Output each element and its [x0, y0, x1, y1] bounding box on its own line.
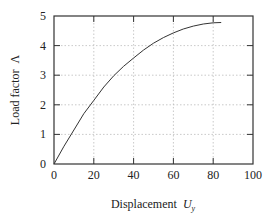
y-tick-labels: 012345 — [40, 9, 46, 171]
load-displacement-chart: 020406080100 012345 DisplacementUy Load … — [0, 0, 275, 218]
data-curve — [54, 23, 221, 165]
grid-lines — [54, 16, 253, 164]
y-tick-label: 5 — [40, 9, 46, 23]
x-tick-label: 60 — [167, 168, 179, 182]
plot-frame — [54, 16, 253, 164]
x-tick-label: 80 — [207, 168, 219, 182]
y-tick-label: 1 — [40, 127, 46, 141]
x-tick-label: 0 — [51, 168, 57, 182]
x-axis-label: DisplacementUy — [111, 197, 196, 213]
x-tick-label: 20 — [88, 168, 100, 182]
x-tick-label: 40 — [128, 168, 140, 182]
y-tick-label: 4 — [40, 39, 46, 53]
x-tick-label: 100 — [244, 168, 262, 182]
y-tick-label: 2 — [40, 98, 46, 112]
y-tick-label: 3 — [40, 68, 46, 82]
x-tick-labels: 020406080100 — [51, 168, 262, 182]
y-axis-label: Load factorΛ — [8, 55, 22, 126]
axis-ticks — [54, 16, 253, 164]
y-tick-label: 0 — [40, 157, 46, 171]
